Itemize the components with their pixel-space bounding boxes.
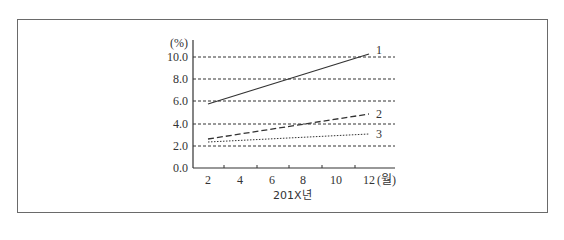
x-tick-4: 4: [237, 173, 243, 187]
series-3-line: [208, 134, 369, 142]
y-unit-label: (%): [170, 36, 188, 50]
series-3-label: 3: [376, 127, 382, 141]
series-1-label: 1: [376, 43, 382, 57]
y-tick-8: 8.0: [173, 72, 188, 86]
x-unit-label: (월): [377, 173, 396, 187]
y-tick-2: 2.0: [173, 139, 188, 153]
grid-lines: [193, 57, 395, 146]
y-tick-6: 6.0: [173, 94, 188, 108]
series-2-label: 2: [376, 107, 382, 121]
x-tick-8: 8: [300, 173, 306, 187]
x-tick-6: 6: [269, 173, 275, 187]
x-tick-12: 12: [363, 173, 375, 187]
series-2-line: [208, 114, 369, 139]
y-tick-4: 4.0: [173, 117, 188, 131]
x-tick-10: 10: [330, 173, 342, 187]
y-tick-0: 0.0: [173, 161, 188, 175]
x-tick-2: 2: [205, 173, 211, 187]
x-axis-caption: 201X년: [273, 186, 312, 202]
y-tick-10: 10.0: [167, 50, 188, 64]
